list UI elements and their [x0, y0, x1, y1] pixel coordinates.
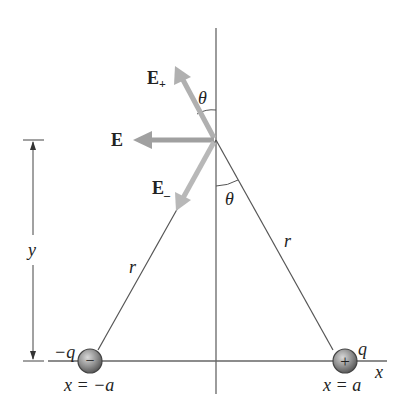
negative-symbol: −: [85, 352, 94, 369]
y-label: y: [26, 240, 36, 260]
x-axis-label: x: [374, 362, 383, 382]
lower-theta-label: θ: [225, 189, 234, 209]
positive-charge: +: [333, 349, 357, 373]
e-net-arrow: [133, 131, 214, 149]
e-plus-label: E+: [147, 68, 166, 91]
right-r-line: [216, 140, 333, 350]
negative-charge: −: [78, 349, 102, 373]
negative-charge-label: −q: [54, 342, 75, 362]
e-minus-arrow: [175, 142, 214, 211]
positive-charge-label: q: [358, 339, 367, 359]
e-minus-label: E–: [152, 178, 171, 202]
upper-theta-label: θ: [198, 88, 207, 108]
negative-position-label: x = −a: [63, 375, 114, 395]
e-plus-arrow: [174, 66, 214, 138]
positive-position-label: x = a: [322, 375, 361, 395]
right-r-label: r: [284, 231, 292, 251]
positive-symbol: +: [340, 352, 350, 371]
left-r-label: r: [129, 257, 137, 277]
e-net-label: E: [111, 130, 123, 150]
lower-theta-arc: [216, 180, 238, 186]
dipole-field-diagram: − + E+ E E– θ θ r r y x −q q x = −a x = …: [0, 0, 414, 408]
